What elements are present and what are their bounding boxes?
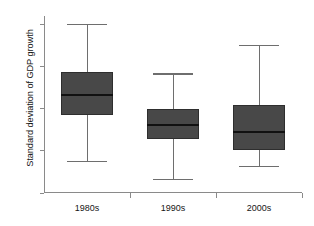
x-tick-label: 2000s [224, 203, 294, 213]
x-tick-mark [302, 193, 303, 198]
x-tick-label: 1980s [52, 203, 122, 213]
x-tick-label: 1990s [138, 203, 208, 213]
y-axis-title: Standard deviation of GDP growth [25, 5, 35, 191]
plot-area: 02468 1980s1990s2000s [44, 16, 302, 193]
iqr-box [233, 105, 285, 150]
upper-whisker-cap [239, 45, 279, 46]
lower-whisker-line [259, 150, 260, 167]
upper-whisker-line [259, 46, 260, 105]
lower-whisker-cap [239, 166, 279, 167]
boxplot-chart: Standard deviation of GDP growth 02468 1… [0, 0, 314, 226]
boxplot-2000s [44, 16, 302, 193]
median-line [233, 131, 285, 133]
x-tick-mark [216, 193, 217, 198]
x-tick-mark [130, 193, 131, 198]
